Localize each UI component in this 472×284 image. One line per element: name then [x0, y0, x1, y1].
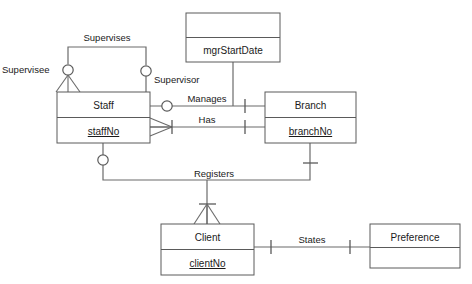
role-label-supervisee: Supervisee — [2, 64, 50, 75]
entity-branch[interactable]: Branch branchNo — [265, 92, 356, 143]
entity-preference-box — [370, 224, 460, 268]
entity-client[interactable]: Client clientNo — [161, 224, 254, 275]
entity-client-name: Client — [195, 232, 221, 243]
supervisor-optional-circle — [141, 66, 151, 76]
entity-mgrstartdate-attr: mgrStartDate — [203, 45, 263, 56]
registers-staff-optional-circle — [98, 155, 108, 165]
supervisee-crows-foot — [56, 75, 80, 92]
entity-mgrstartdate[interactable]: mgrStartDate — [186, 13, 280, 62]
entity-staff-name: Staff — [93, 100, 114, 111]
relationship-supervises — [56, 47, 151, 92]
relationship-label-manages: Manages — [187, 93, 226, 104]
relationship-manages — [150, 62, 265, 113]
entity-preference-name: Preference — [391, 232, 440, 243]
supervisee-optional-circle — [63, 65, 73, 75]
has-crows-foot — [150, 118, 172, 136]
entity-staff-pk: staffNo — [88, 126, 120, 137]
manages-optional-circle — [162, 101, 172, 111]
supervises-connector — [68, 47, 146, 65]
entity-client-pk: clientNo — [189, 258, 226, 269]
role-label-supervisor: Supervisor — [154, 74, 199, 85]
relationship-label-states: States — [299, 234, 326, 245]
entity-branch-name: Branch — [295, 100, 327, 111]
er-diagram-canvas: Staff staffNo Branch branchNo mgrStartDa… — [0, 0, 472, 284]
er-diagram-svg: Staff staffNo Branch branchNo mgrStartDa… — [0, 0, 472, 284]
entity-preference[interactable]: Preference — [370, 224, 460, 268]
relationship-registers — [98, 143, 318, 224]
relationship-label-registers: Registers — [194, 168, 234, 179]
entity-staff[interactable]: Staff staffNo — [57, 92, 150, 143]
entity-branch-pk: branchNo — [289, 126, 333, 137]
relationship-label-has: Has — [199, 114, 216, 125]
registers-client-crows-foot — [194, 204, 220, 224]
relationship-label-supervises: Supervises — [84, 32, 131, 43]
